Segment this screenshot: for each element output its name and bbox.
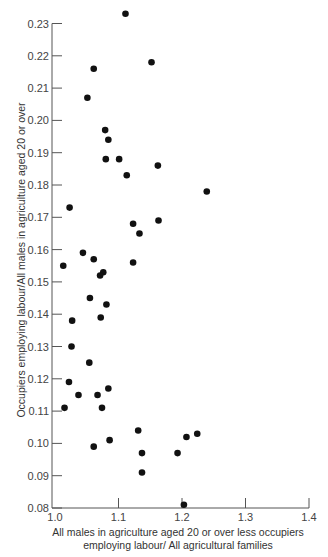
data-point: [130, 220, 137, 227]
data-point: [106, 437, 113, 444]
data-point: [130, 259, 137, 266]
data-point: [94, 392, 101, 399]
data-point: [139, 450, 146, 457]
x-tick-label: 1.1: [111, 511, 126, 523]
x-tick-label: 1.4: [301, 511, 316, 523]
data-point: [139, 469, 146, 476]
data-point: [102, 127, 109, 134]
data-point: [103, 301, 110, 308]
y-tick-label: 0.12: [28, 373, 49, 385]
x-tick-label: 1.3: [238, 511, 253, 523]
x-tick-label: 1.2: [174, 511, 189, 523]
data-point: [69, 317, 76, 324]
y-tick-label: 0.17: [28, 211, 49, 223]
y-tick-label: 0.22: [28, 50, 49, 62]
data-point: [60, 262, 67, 269]
x-axis: 1.01.11.21.31.4: [47, 498, 316, 523]
data-point: [105, 385, 112, 392]
data-point: [90, 65, 97, 72]
y-tick-label: 0.08: [28, 502, 49, 514]
data-point: [68, 343, 75, 350]
y-tick-label: 0.15: [28, 276, 49, 288]
data-points: [60, 11, 210, 509]
y-axis-title: Occupiers employing labour/All males in …: [15, 102, 27, 418]
scatter-chart: 0.080.090.100.110.120.130.140.150.160.17…: [0, 0, 328, 557]
y-tick-label: 0.21: [28, 82, 49, 94]
y-tick-label: 0.10: [28, 437, 49, 449]
x-axis-title-line-1: All males in agriculture aged 20 or over…: [52, 526, 304, 538]
data-point: [136, 230, 143, 237]
data-point: [99, 405, 106, 412]
y-tick-label: 0.09: [28, 470, 49, 482]
data-point: [66, 204, 73, 211]
data-point: [155, 162, 162, 169]
y-tick-label: 0.16: [28, 244, 49, 256]
data-point: [135, 427, 142, 434]
data-point: [105, 136, 112, 143]
data-point: [116, 156, 123, 163]
data-point: [183, 434, 190, 441]
y-tick-label: 0.20: [28, 114, 49, 126]
data-point: [90, 443, 97, 450]
data-point: [194, 430, 201, 437]
data-point: [122, 11, 129, 18]
data-point: [97, 314, 104, 321]
y-axis: 0.080.090.100.110.120.130.140.150.160.17…: [28, 18, 62, 515]
data-point: [97, 272, 104, 279]
y-tick-label: 0.18: [28, 179, 49, 191]
data-point: [90, 256, 97, 263]
data-point: [66, 379, 73, 386]
data-point: [181, 501, 188, 508]
data-point: [148, 59, 155, 66]
data-point: [155, 217, 162, 224]
data-point: [86, 359, 93, 366]
data-point: [174, 450, 181, 457]
data-point: [103, 156, 110, 163]
data-point: [87, 295, 94, 302]
data-point: [123, 172, 130, 179]
y-tick-label: 0.13: [28, 341, 49, 353]
data-point: [61, 405, 68, 412]
data-point: [75, 392, 82, 399]
x-tick-label: 1.0: [47, 511, 62, 523]
data-point: [203, 188, 210, 195]
y-tick-label: 0.23: [28, 18, 49, 30]
y-tick-label: 0.14: [28, 308, 49, 320]
data-point: [80, 250, 87, 257]
x-axis-title-line-2: employing labour/ All agricultural famil…: [83, 539, 273, 551]
y-tick-label: 0.11: [28, 405, 49, 417]
y-tick-label: 0.19: [28, 147, 49, 159]
data-point: [84, 94, 91, 101]
